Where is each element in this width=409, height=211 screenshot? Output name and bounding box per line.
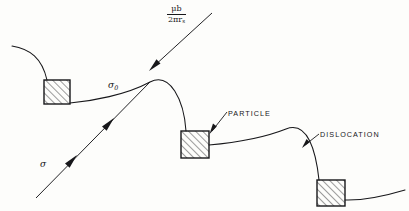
particle-box-2 (181, 131, 209, 158)
dislocation-label: DISLOCATION (320, 131, 380, 138)
leader-particle-icon (210, 112, 228, 134)
particle-box-3 (317, 180, 345, 206)
dislocation-segment-arc-1 (70, 80, 186, 131)
formula-denominator-subscript: s (182, 18, 185, 24)
applied-stress-label: σ (40, 160, 46, 169)
dislocation-segment-entry (12, 46, 47, 80)
dislocation-segment-arc-2 (209, 128, 319, 180)
dislocation-segment-exit (345, 190, 405, 200)
diagram-canvas (0, 0, 409, 211)
formula-numerator: μb (167, 5, 186, 14)
formula-denominator: 2πrs (167, 15, 186, 25)
particle-box-1 (44, 80, 70, 104)
particle-label: PARTICLE (228, 110, 271, 117)
back-stress-label: σ0 (108, 81, 118, 91)
formula-denominator-lead: 2πr (168, 15, 182, 24)
line-tension-formula: μb 2πrs (167, 5, 186, 25)
leader-dislocation-icon (302, 134, 319, 148)
back-stress-subscript: 0 (114, 84, 118, 91)
dislocation-bowing-diagram: μb 2πrs σ0 σ PARTICLE DISLOCATION (0, 0, 409, 211)
